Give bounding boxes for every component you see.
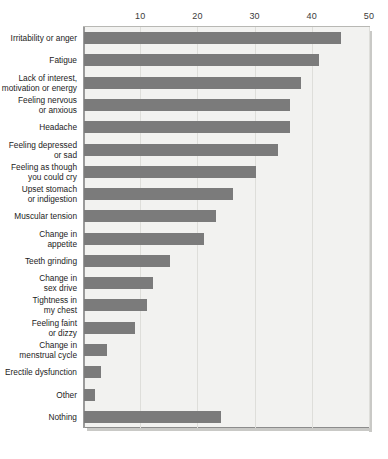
bar (84, 32, 341, 44)
category-label: Change in appetite (0, 229, 77, 249)
category-label: Feeling faint or dizzy (0, 318, 77, 338)
category-label: Muscular tension (0, 211, 77, 221)
x-tick-label-50: 50 (364, 11, 374, 21)
bar (84, 99, 290, 111)
category-label: Teeth grinding (0, 256, 77, 266)
category-label: Change in menstrual cycle (0, 340, 77, 360)
bar (84, 77, 301, 89)
bar (84, 255, 170, 267)
category-label: Change in sex drive (0, 273, 77, 293)
x-tick-label-20: 20 (192, 11, 202, 21)
bar (84, 188, 233, 200)
bar-rows: Irritability or angerFatigueLack of inte… (0, 27, 388, 428)
bar (84, 166, 256, 178)
bar (84, 389, 95, 401)
bar (84, 366, 101, 378)
bar (84, 322, 135, 334)
plot-bottom-shadow (87, 428, 372, 431)
bar (84, 54, 319, 66)
bar (84, 144, 278, 156)
bar (84, 344, 107, 356)
x-tick-label-10: 10 (135, 11, 145, 21)
category-label: Fatigue (0, 55, 77, 65)
bar (84, 233, 204, 245)
category-label: Lack of interest, motivation or energy (0, 73, 77, 93)
x-tick-label-40: 40 (307, 11, 317, 21)
category-label: Upset stomach or indigestion (0, 184, 77, 204)
bar (84, 299, 147, 311)
horizontal-bar-chart: 1020304050 Irritability or angerFatigueL… (0, 0, 388, 459)
category-label: Irritability or anger (0, 33, 77, 43)
x-tick-label-30: 30 (249, 11, 259, 21)
category-label: Erectile dysfunction (0, 367, 77, 377)
bar (84, 277, 153, 289)
bar (84, 210, 216, 222)
category-label: Tightness in my chest (0, 295, 77, 315)
bar (84, 411, 221, 423)
category-label: Headache (0, 122, 77, 132)
category-label: Feeling nervous or anxious (0, 95, 77, 115)
category-label: Feeling depressed or sad (0, 140, 77, 160)
bar (84, 121, 290, 133)
category-label: Feeling as though you could cry (0, 162, 77, 182)
category-label: Nothing (0, 412, 77, 422)
category-label: Other (0, 390, 77, 400)
